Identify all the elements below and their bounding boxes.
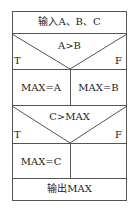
output-step: 输出MAX [12,183,127,195]
decision-1-true-branch: MAX=A [12,82,70,94]
decision-2-false-label: F [115,129,122,141]
decision-2-true-label: T [14,129,21,141]
decision-1-true-label: T [14,55,21,67]
decision-2-true-branch: MAX=C [12,156,70,168]
decision-1-false-label: F [115,55,122,67]
decision-2-condition: C>MAX [12,111,127,123]
decision-1-false-branch: MAX=B [70,82,127,94]
nassi-shneiderman-chart: 输入A、B、C A>B T F MAX=A MAX=B C>MAX T F MA… [12,11,127,201]
decision-1-condition: A>B [12,40,127,52]
input-step: 输入A、B、C [12,16,127,28]
